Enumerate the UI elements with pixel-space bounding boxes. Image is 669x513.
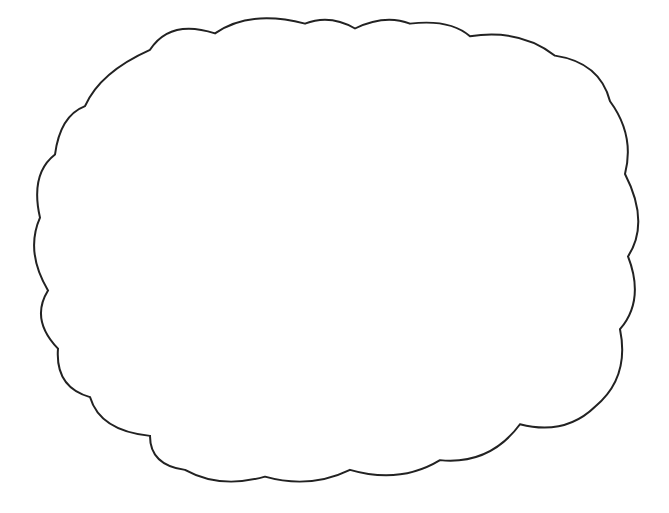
thought-cloud-graphic [0, 0, 669, 513]
